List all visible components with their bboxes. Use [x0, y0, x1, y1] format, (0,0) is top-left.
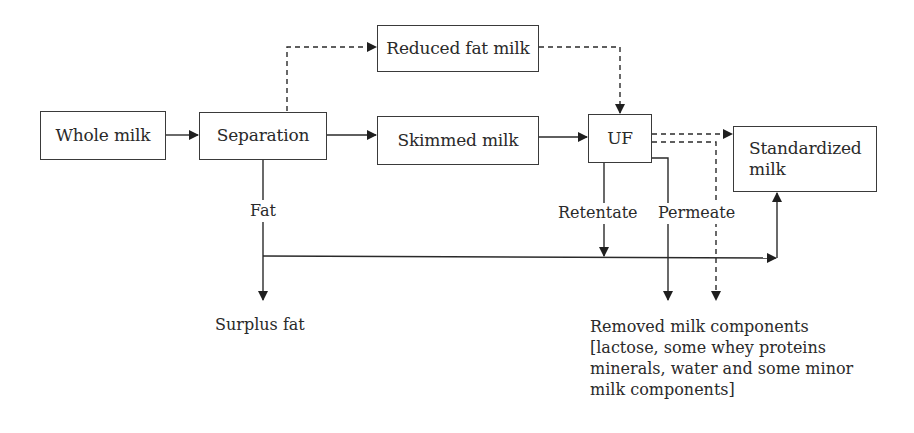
label-fat: Fat	[250, 201, 276, 222]
node-skimmed-milk-label: Skimmed milk	[398, 130, 519, 151]
permeate-line-upper	[652, 158, 668, 206]
label-removed-line3: minerals, water and some minor	[590, 358, 853, 379]
node-whole-milk-label: Whole milk	[56, 125, 151, 146]
node-standardized-milk-line1: Standardized	[749, 138, 862, 159]
dashed-reduced-to-uf	[539, 47, 620, 113]
node-uf-label: UF	[607, 128, 633, 149]
node-separation-label: Separation	[217, 125, 309, 146]
node-reduced-fat-milk-label: Reduced fat milk	[386, 38, 529, 59]
node-standardized-milk-line2: milk	[749, 159, 786, 180]
label-removed-components: Removed milk components [lactose, some w…	[590, 316, 853, 400]
node-skimmed-milk: Skimmed milk	[377, 116, 539, 165]
node-uf: UF	[588, 114, 652, 163]
label-removed-line4: milk components]	[590, 379, 853, 400]
node-whole-milk: Whole milk	[40, 111, 166, 160]
label-permeate: Permeate	[656, 203, 737, 224]
node-reduced-fat-milk: Reduced fat milk	[377, 25, 539, 72]
fat-to-standardized-horizontal	[263, 256, 776, 258]
label-retentate: Retentate	[556, 203, 640, 224]
label-removed-line1: Removed milk components	[590, 316, 853, 337]
dashed-separation-to-reduced	[287, 47, 376, 111]
node-separation: Separation	[199, 112, 327, 160]
label-surplus-fat: Surplus fat	[215, 315, 305, 336]
node-standardized-milk: Standardized milk	[733, 126, 877, 192]
label-removed-line2: [lactose, some whey proteins	[590, 337, 853, 358]
